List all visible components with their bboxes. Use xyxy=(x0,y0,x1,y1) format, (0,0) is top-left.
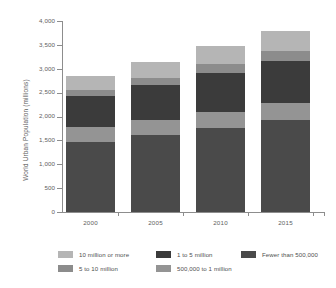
x-tick-2015 xyxy=(313,212,314,216)
legend-item[interactable]: 10 million or more xyxy=(58,248,129,260)
legend-item[interactable]: Fewer than 500,000 xyxy=(241,248,318,260)
bar-segment xyxy=(196,73,245,112)
bar-segment xyxy=(131,62,180,78)
legend-item[interactable]: 500,000 to 1 million xyxy=(156,262,232,274)
bar-segment xyxy=(196,46,245,64)
bar-segment xyxy=(261,51,310,61)
legend-label: 500,000 to 1 million xyxy=(177,265,232,272)
legend-label: 1 to 5 million xyxy=(177,251,213,258)
legend-row-1: 10 million or more1 to 5 millionFewer th… xyxy=(58,248,330,260)
y-axis-title-text: World Urban Population (millions) xyxy=(22,79,29,181)
x-axis-label-2015: 2015 xyxy=(256,219,316,226)
x-tick-2005 xyxy=(183,212,184,216)
legend-item[interactable]: 5 to 10 million xyxy=(58,262,118,274)
legend-swatch xyxy=(58,251,73,258)
bar-segment xyxy=(66,76,115,89)
legend-label: 5 to 10 million xyxy=(79,265,118,272)
bar-segment xyxy=(131,85,180,120)
legend-row-2: 5 to 10 million500,000 to 1 million xyxy=(58,262,330,274)
legend-swatch xyxy=(156,265,171,272)
y-axis-title: World Urban Population (millions) xyxy=(18,60,32,200)
bar-segment xyxy=(131,78,180,85)
x-tick-2000 xyxy=(118,212,119,216)
x-tick-2010 xyxy=(248,212,249,216)
y-tick-label-3500: 3,500 xyxy=(3,42,55,48)
x-tick-end xyxy=(324,212,325,216)
y-tick-2500 xyxy=(57,93,62,94)
legend-label: Fewer than 500,000 xyxy=(262,251,318,258)
legend-swatch xyxy=(58,265,73,272)
bar-segment xyxy=(261,61,310,103)
bar-segment xyxy=(196,112,245,129)
bar-segment xyxy=(261,120,310,212)
legend-swatch xyxy=(241,251,256,258)
stacked-bar-chart-figure: 4,0003,5003,0002,5002,0001,5001,0005000 … xyxy=(0,0,336,288)
bar-2005 xyxy=(131,62,180,212)
bar-segment xyxy=(131,135,180,212)
y-tick-1500 xyxy=(57,140,62,141)
legend-swatch xyxy=(156,251,171,258)
bar-segment xyxy=(66,127,115,142)
y-tick-label-0: 0 xyxy=(3,209,55,215)
bar-segment xyxy=(66,90,115,97)
y-tick-2000 xyxy=(57,117,62,118)
bar-2015 xyxy=(261,31,310,212)
legend-label: 10 million or more xyxy=(79,251,129,258)
bar-segment xyxy=(261,31,310,52)
y-tick-500 xyxy=(57,188,62,189)
y-tick-3500 xyxy=(57,45,62,46)
bar-segment xyxy=(131,120,180,135)
legend-item[interactable]: 1 to 5 million xyxy=(156,248,213,260)
bar-segment xyxy=(261,103,310,120)
bar-segment xyxy=(196,64,245,72)
y-tick-label-4000: 4,000 xyxy=(3,18,55,24)
y-tick-0 xyxy=(57,212,62,213)
x-axis-label-2010: 2010 xyxy=(191,219,251,226)
x-axis-line xyxy=(62,212,325,213)
chart-legend: 10 million or more1 to 5 millionFewer th… xyxy=(58,248,330,280)
bar-segment xyxy=(196,128,245,212)
bar-segment xyxy=(66,96,115,127)
x-axis-label-2005: 2005 xyxy=(126,219,186,226)
y-tick-1000 xyxy=(57,164,62,165)
bar-2000 xyxy=(66,76,115,212)
x-axis-label-2000: 2000 xyxy=(61,219,121,226)
y-tick-4000 xyxy=(57,21,62,22)
bar-segment xyxy=(66,142,115,212)
bar-2010 xyxy=(196,46,245,212)
y-tick-3000 xyxy=(57,69,62,70)
plot-area xyxy=(63,21,325,212)
